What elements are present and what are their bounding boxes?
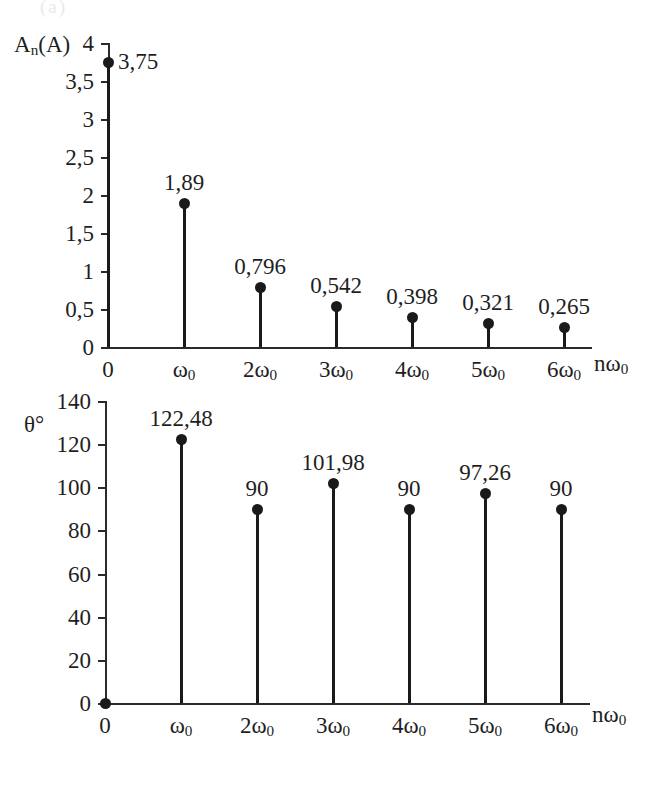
y-tick-mark [98, 574, 106, 576]
amplitude-spectrum-chart: An(A) nω0 00,511,522,533,5403,75ω01,892ω… [0, 0, 661, 395]
y-tick-mark [101, 43, 109, 45]
y-tick-label: 1,5 [16, 222, 94, 245]
phase-spectrum-chart: θ° nω0 0204060801001201400ω0122,482ω0903… [0, 395, 661, 755]
y-tick-label: 3 [16, 108, 94, 131]
data-point-label: 1,89 [129, 171, 239, 194]
data-point-marker [483, 318, 494, 329]
stem-line [332, 483, 335, 703]
data-point-marker [556, 504, 567, 515]
y-tick-label: 80 [13, 519, 91, 542]
x-tick-label: 6ω0 [519, 358, 609, 383]
data-point-marker [255, 282, 266, 293]
y-tick-label: 0,5 [16, 298, 94, 321]
y-tick-label: 2 [16, 184, 94, 207]
data-point-marker [407, 312, 418, 323]
data-point-label: 0,265 [509, 295, 619, 318]
y-tick-label: 120 [13, 433, 91, 456]
y-tick-mark [98, 444, 106, 446]
stem-line [259, 287, 262, 347]
stem-line [484, 493, 487, 703]
data-point-label: 90 [202, 477, 312, 500]
y-tick-label: 140 [13, 390, 91, 413]
y-tick-label: 60 [13, 563, 91, 586]
stem-line [183, 203, 186, 347]
y-tick-label: 0 [13, 692, 91, 715]
y-tick-mark [98, 660, 106, 662]
stem-line [560, 509, 563, 703]
y-tick-label: 2,5 [16, 146, 94, 169]
stem-line [408, 509, 411, 703]
data-point-label: 3,75 [118, 50, 228, 73]
y-tick-label: 0 [16, 336, 94, 359]
data-point-marker [252, 504, 263, 515]
y-tick-label: 4 [16, 32, 94, 55]
data-point-marker [103, 57, 114, 68]
data-point-label: 90 [506, 477, 616, 500]
stem-line [256, 509, 259, 703]
y-tick-label: 1 [16, 260, 94, 283]
data-point-marker [328, 478, 339, 489]
y-tick-label: 20 [13, 649, 91, 672]
y-tick-label: 3,5 [16, 70, 94, 93]
data-point-marker [331, 301, 342, 312]
data-point-marker [404, 504, 415, 515]
data-point-marker [179, 198, 190, 209]
y-tick-label: 40 [13, 606, 91, 629]
data-point-marker [480, 488, 491, 499]
data-point-marker [176, 434, 187, 445]
data-point-label: 122,48 [126, 407, 236, 430]
y-tick-mark [98, 617, 106, 619]
y-tick-mark [101, 347, 109, 349]
x-axis-line [105, 703, 590, 705]
data-point-marker [100, 698, 111, 709]
stem-line [107, 62, 110, 347]
y-tick-label: 100 [13, 476, 91, 499]
x-axis-line [108, 347, 592, 349]
y-tick-mark [98, 487, 106, 489]
y-tick-mark [98, 530, 106, 532]
x-tick-label: 6ω0 [516, 714, 606, 739]
data-point-marker [559, 322, 570, 333]
data-point-label: 101,98 [278, 451, 388, 474]
y-tick-mark [98, 401, 106, 403]
figure-canvas: (a) An(A) nω0 00,511,522,533,5403,75ω01,… [0, 0, 661, 801]
stem-line [335, 306, 338, 347]
stem-line [180, 439, 183, 703]
